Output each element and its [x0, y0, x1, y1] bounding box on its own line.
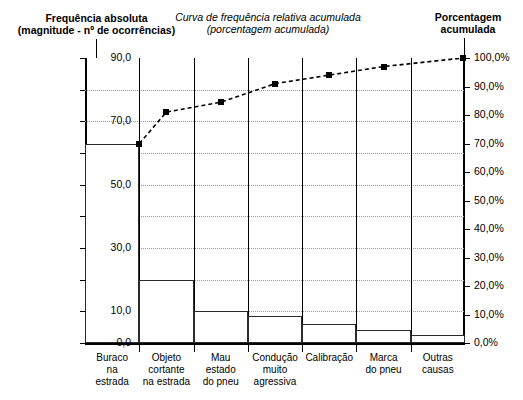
- curve-title: Curva de frequência relativa acumulada (…: [168, 11, 368, 36]
- y2-axis-label: 100,0%: [474, 51, 523, 63]
- category-separator: [248, 58, 249, 343]
- y2-axis-tick: [465, 172, 470, 173]
- y2-axis-tick: [465, 258, 470, 259]
- left-axis-title-line2: (magnitude - nº de ocorrências): [4, 24, 189, 36]
- y-axis-tick: [80, 90, 85, 91]
- y2-axis-label: 70,0%: [474, 137, 523, 149]
- category-tick: [356, 345, 357, 352]
- x-axis-line: [85, 343, 465, 345]
- category-label-line: muito: [240, 364, 310, 376]
- y2-axis-label: 60,0%: [474, 165, 523, 177]
- y-axis-label: 90,0: [71, 51, 131, 63]
- y2-axis-label: 50,0%: [474, 194, 523, 206]
- category-tick: [194, 345, 195, 352]
- category-separator: [302, 58, 303, 343]
- gridline: [85, 248, 465, 249]
- bar: [356, 330, 410, 343]
- category-label-line: agressiva: [240, 376, 310, 388]
- category-label: Outrascausas: [403, 352, 473, 376]
- left-axis-title: Frequência absoluta (magnitude - nº de o…: [4, 12, 189, 37]
- category-tick: [302, 345, 303, 352]
- right-axis-line: [463, 58, 465, 345]
- y2-axis-label: 20,0%: [474, 279, 523, 291]
- y2-axis-label: 10,0%: [474, 308, 523, 320]
- right-title-leader-line: [464, 38, 465, 57]
- y-axis-label: 30,0: [71, 241, 131, 253]
- gridline: [85, 216, 465, 217]
- y-axis-label: 70,0: [71, 114, 131, 126]
- plot-area: [85, 58, 465, 345]
- gridline: [85, 153, 465, 154]
- curve-title-line2: (porcentagem acumulada): [168, 23, 368, 35]
- category-tick: [411, 345, 412, 352]
- y2-axis-tick: [465, 343, 470, 344]
- bar: [194, 311, 248, 343]
- right-axis-title-line1: Porcentagem: [418, 11, 518, 23]
- y2-axis-tick: [465, 144, 470, 145]
- left-axis-title-line1: Frequência absoluta: [4, 12, 189, 24]
- right-axis-title-line2: acumulada: [418, 23, 518, 35]
- y2-axis-label: 0,0%: [474, 336, 523, 348]
- category-separator: [194, 58, 195, 343]
- y-axis-label: 50,0: [71, 178, 131, 190]
- y2-axis-tick: [465, 315, 470, 316]
- y-axis-label: 0,0: [71, 336, 131, 348]
- gridline: [85, 185, 465, 186]
- y2-axis-label: 90,0%: [474, 80, 523, 92]
- y2-axis-label: 80,0%: [474, 108, 523, 120]
- y2-axis-tick: [465, 201, 470, 202]
- y2-axis-tick: [465, 229, 470, 230]
- category-label-line: causas: [403, 364, 473, 376]
- category-label-line: Outras: [403, 352, 473, 364]
- y2-axis-label: 40,0%: [474, 222, 523, 234]
- y2-axis-tick: [465, 87, 470, 88]
- y2-axis-tick: [465, 286, 470, 287]
- pareto-chart: Frequência absoluta (magnitude - nº de o…: [0, 0, 523, 400]
- bar: [248, 316, 302, 343]
- bar: [139, 280, 193, 343]
- y2-axis-tick: [465, 58, 470, 59]
- gridline: [85, 121, 465, 122]
- category-tick: [248, 345, 249, 352]
- curve-title-line1: Curva de frequência relativa acumulada: [168, 11, 368, 23]
- y2-axis-label: 30,0%: [474, 251, 523, 263]
- category-tick: [139, 345, 140, 352]
- y-axis-label: 10,0: [71, 304, 131, 316]
- bar: [302, 324, 356, 343]
- y2-axis-tick: [465, 115, 470, 116]
- gridline: [85, 90, 465, 91]
- category-separator: [411, 58, 412, 343]
- right-axis-title: Porcentagem acumulada: [418, 11, 518, 36]
- category-separator: [356, 58, 357, 343]
- bar: [411, 335, 465, 343]
